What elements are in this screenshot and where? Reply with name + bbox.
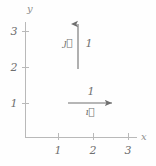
vector-diagram: y x 1 2 3 1 2 3 ȷ⃗ 1 1 ı⃗ — [0, 0, 156, 166]
i-hat-arrow — [0, 0, 156, 166]
i-hat-magnitude-label: 1 — [85, 85, 97, 98]
i-hat-label: ı⃗ — [82, 106, 98, 117]
